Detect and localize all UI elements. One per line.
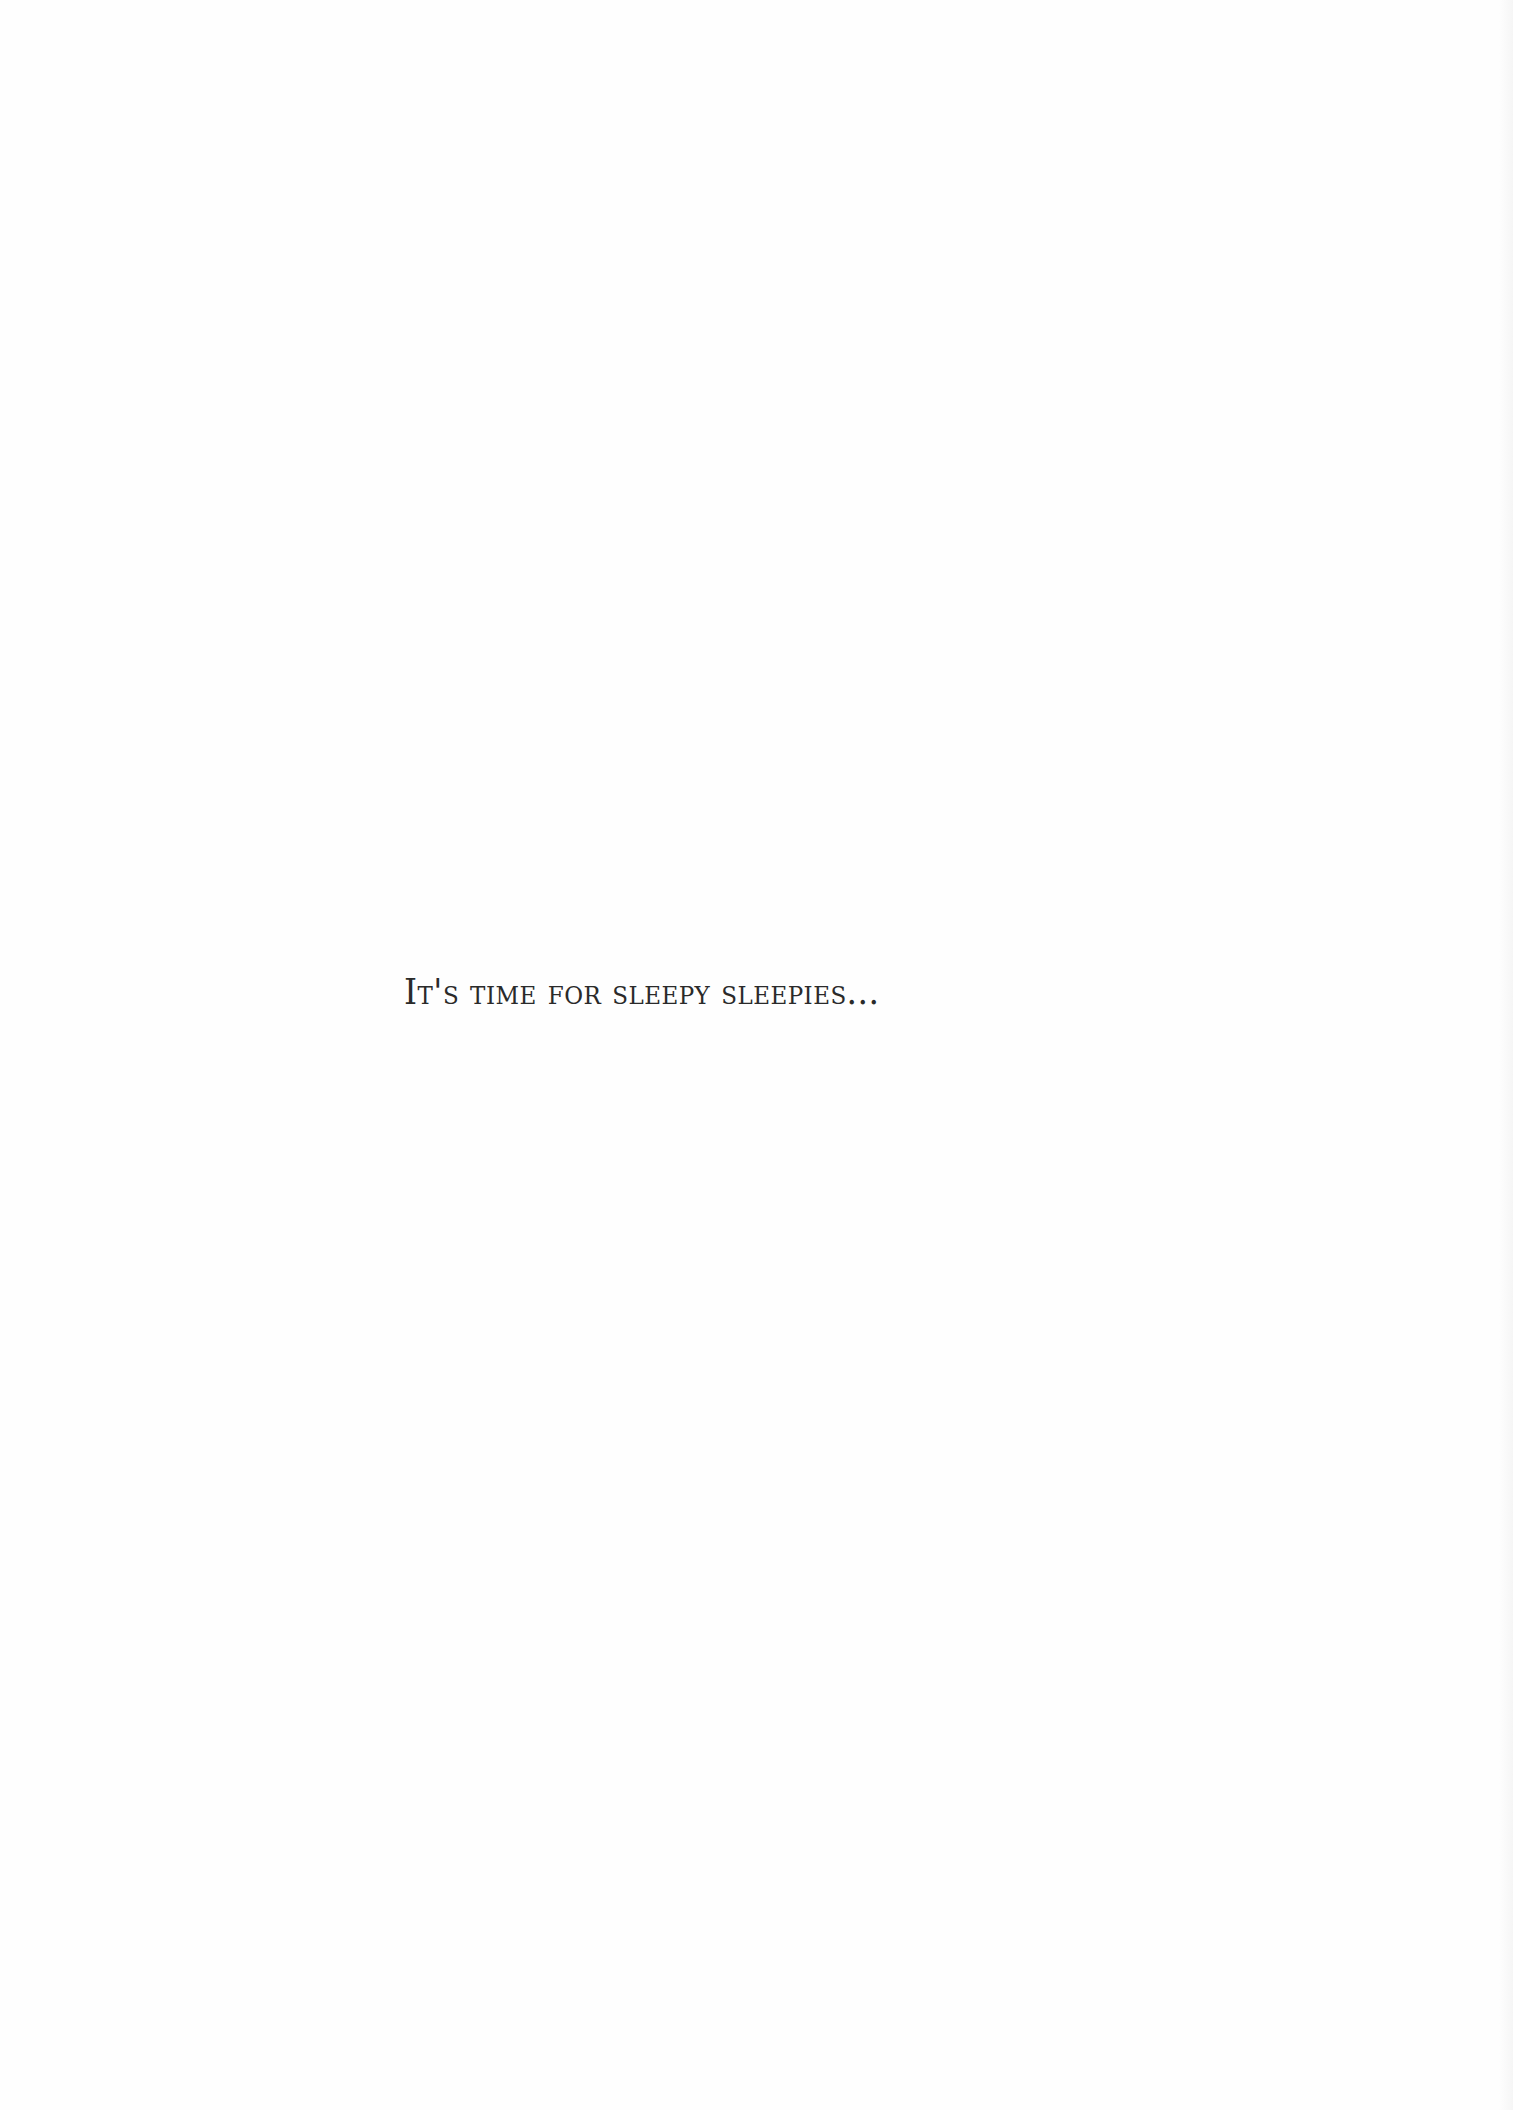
blank-page: It's time for sleepy sleepies...	[0, 0, 1513, 2110]
centered-caption-text: It's time for sleepy sleepies...	[404, 968, 880, 1016]
scan-edge-shadow	[1499, 0, 1513, 2110]
